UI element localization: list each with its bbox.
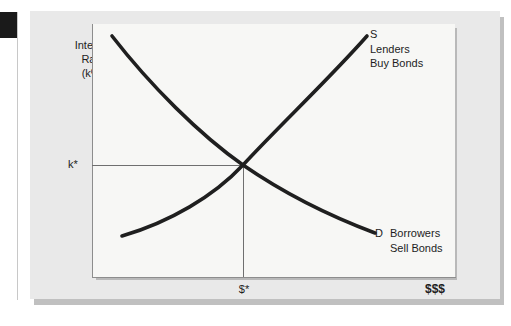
demand-curve bbox=[112, 36, 375, 233]
supply-curve bbox=[122, 36, 367, 236]
figure-container: Interest Rate (k%) S Lenders Buy Bonds D… bbox=[0, 0, 511, 326]
demand-curve-label: D Borrowers Sell Bonds bbox=[375, 226, 443, 255]
demand-caption-line2: Sell Bonds bbox=[390, 241, 443, 256]
x-axis-tick-equilibrium-price: $* bbox=[230, 283, 258, 295]
demand-caption: Borrowers Sell Bonds bbox=[390, 226, 443, 255]
y-axis-tick-equilibrium-rate: k* bbox=[68, 158, 78, 170]
x-axis-tick-quantity: $$$ bbox=[425, 282, 445, 296]
demand-caption-line1: Borrowers bbox=[390, 226, 443, 241]
supply-caption-line1: Lenders bbox=[370, 42, 423, 57]
supply-caption-line2: Buy Bonds bbox=[370, 56, 423, 71]
demand-curve-tag: D bbox=[375, 226, 383, 241]
supply-curve-label: S Lenders Buy Bonds bbox=[370, 27, 423, 71]
supply-curve-tag: S bbox=[370, 27, 423, 42]
